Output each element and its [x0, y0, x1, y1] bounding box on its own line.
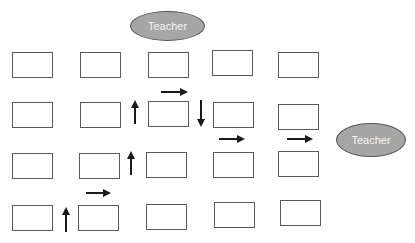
- movement-arrows: [0, 0, 415, 243]
